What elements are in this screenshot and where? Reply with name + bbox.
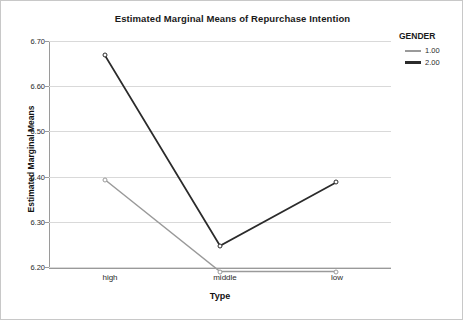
y-tick-label: 6.20	[5, 263, 45, 272]
series-line-2.00	[105, 55, 336, 245]
legend-swatch-icon	[405, 50, 421, 52]
y-tick-label: 6.60	[5, 82, 45, 91]
y-tick-label: 6.70	[5, 37, 45, 46]
y-tick-label: 6.30	[5, 218, 45, 227]
chart-container: Estimated Marginal Means of Repurchase I…	[0, 0, 463, 320]
data-point	[103, 177, 108, 182]
y-tick-label: 6.40	[5, 173, 45, 182]
data-point	[334, 180, 339, 185]
legend-item-label: 2.00	[425, 58, 440, 67]
legend-item-1[interactable]: 1.00	[397, 46, 463, 55]
data-point	[218, 243, 223, 248]
series-lines	[49, 41, 391, 268]
plot-area	[49, 41, 391, 268]
legend-item-label: 1.00	[425, 46, 440, 55]
y-axis-ticks: 6.70 6.60 6.50 6.40 6.30 6.20	[1, 1, 45, 320]
chart-title: Estimated Marginal Means of Repurchase I…	[1, 13, 463, 24]
x-tick-label-high: high	[70, 273, 150, 282]
legend-swatch-icon	[405, 61, 421, 64]
data-point	[103, 53, 108, 58]
legend-item-2[interactable]: 2.00	[397, 58, 463, 67]
x-axis-title: Type	[49, 291, 391, 301]
x-tick-label-low: low	[297, 273, 377, 282]
legend: GENDER 1.00 2.00	[397, 31, 463, 70]
legend-title: GENDER	[397, 31, 463, 41]
y-tick-label: 6.50	[5, 127, 45, 136]
y-axis-title: Estimated Marginal Means	[26, 69, 36, 249]
x-tick-label-middle: middle	[185, 273, 265, 282]
series-line-1.00	[105, 180, 336, 272]
